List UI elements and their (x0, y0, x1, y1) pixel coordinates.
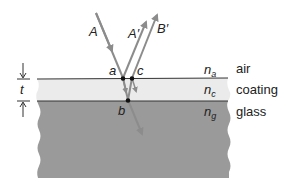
point-b (126, 98, 131, 103)
point-c (130, 76, 135, 81)
ray-label-b-prime: B′ (157, 21, 169, 36)
layer-label-air: air (236, 61, 251, 76)
point-label-c: c (137, 63, 144, 78)
thickness-label: t (20, 82, 25, 97)
point-a (121, 76, 126, 81)
anti-reflection-coating-diagram: t A A′ B′ a c b na nc ng air coating gla… (0, 0, 288, 185)
index-label-air: na (204, 62, 216, 79)
ray-label-a: A (88, 24, 98, 39)
layer-label-coating: coating (236, 82, 278, 97)
point-label-b: b (118, 103, 125, 118)
point-label-a: a (109, 63, 116, 78)
layer-label-glass: glass (236, 104, 267, 119)
ray-label-a-prime: A′ (127, 26, 140, 41)
